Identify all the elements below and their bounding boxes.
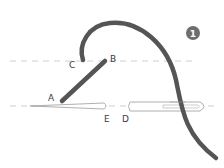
label-e: E — [104, 114, 110, 124]
label-c: C — [69, 60, 75, 70]
label-d: D — [122, 114, 129, 124]
thread — [82, 23, 216, 158]
stitch-diagram: A B C E D 1 — [0, 0, 224, 168]
label-b: B — [110, 54, 116, 64]
needle-point — [30, 103, 106, 109]
label-a: A — [48, 93, 55, 103]
needle-eye-end — [129, 102, 205, 111]
step-badge-number: 1 — [190, 29, 196, 39]
